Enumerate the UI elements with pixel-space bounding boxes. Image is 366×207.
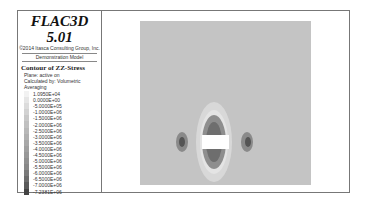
legend-label: -6.5000E+06	[33, 176, 62, 182]
legend-label: -7.0000E+06	[33, 182, 62, 188]
legend-label: 0.0000E+00	[33, 97, 60, 103]
legend-label: -5.5000E+06	[33, 164, 62, 170]
calc-info: Calculated by: Volumetric Averaging	[24, 78, 101, 90]
legend-label: 1.0950E+04	[33, 91, 60, 97]
excavation-opening	[202, 135, 229, 149]
legend-label: -5.0000E+05	[33, 103, 62, 109]
app-title: FLAC3D 5.01	[18, 13, 101, 45]
legend-label: -4.5000E+06	[33, 152, 62, 158]
legend-entry: -7.2381E+06	[24, 189, 101, 195]
legend-panel: FLAC3D 5.01 ©2014 Itasca Consulting Grou…	[18, 11, 102, 192]
legend-label: -5.0000E+06	[33, 158, 62, 164]
legend-label: -1.5000E+06	[33, 115, 62, 121]
contour-plot	[140, 21, 311, 185]
legend-label: -3.5000E+06	[33, 140, 62, 146]
legend-label: -4.0000E+06	[33, 146, 62, 152]
contour-graphic	[140, 21, 311, 185]
color-scale: 1.0950E+040.0000E+00-5.0000E+05-1.0000E+…	[24, 91, 101, 195]
legend-label: -7.2381E+06	[33, 189, 62, 195]
model-name: Demonstration Model	[22, 53, 97, 62]
legend-label: -3.0000E+06	[33, 134, 62, 140]
legend-label: -2.0000E+06	[33, 122, 62, 128]
legend-label: -2.5000E+06	[33, 128, 62, 134]
color-swatch	[24, 189, 29, 195]
legend-label: -6.0000E+06	[33, 170, 62, 176]
legend-label: -1.0000E+06	[33, 109, 62, 115]
figure-frame: FLAC3D 5.01 ©2014 Itasca Consulting Grou…	[17, 10, 350, 193]
copyright: ©2014 Itasca Consulting Group, Inc.	[18, 45, 101, 52]
contour-title: Contour of ZZ-Stress	[21, 64, 101, 72]
